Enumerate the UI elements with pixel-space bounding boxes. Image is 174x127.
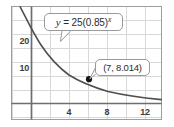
equation-equals: = — [61, 17, 72, 28]
y-tick-label-20: 20 — [12, 36, 29, 46]
equation-coefficient: 25(0.85) — [72, 17, 108, 28]
equation-exponent: x — [108, 15, 111, 24]
y-tick-label-10: 10 — [12, 63, 29, 73]
x-tick-label-12: 12 — [136, 107, 154, 117]
equation-text: y = 25(0.85)x — [56, 16, 112, 28]
exponential-decay-figure: 20 10 4 8 12 y = 25(0.85)x (7, 8.014) — [0, 0, 174, 127]
point-coordinate-callout: (7, 8.014) — [95, 59, 150, 76]
equation-callout: y = 25(0.85)x — [44, 13, 123, 31]
x-tick-label-4: 4 — [60, 107, 78, 117]
x-tick-label-8: 8 — [98, 107, 116, 117]
